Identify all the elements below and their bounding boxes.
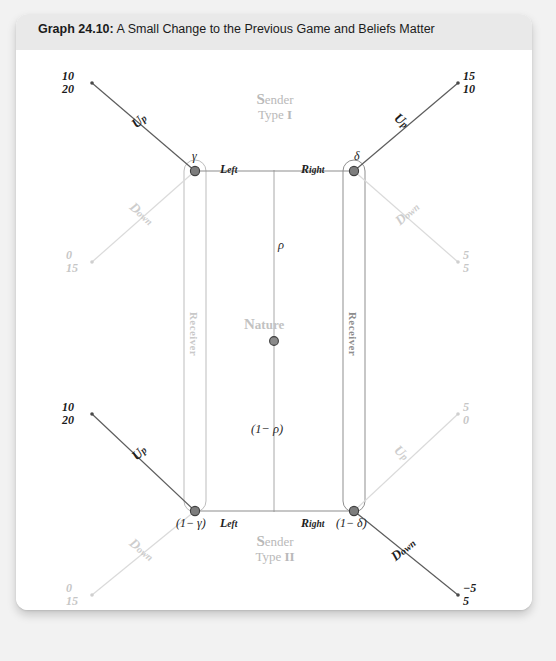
sender-top-cap: S	[256, 91, 264, 107]
message-bottom-right-cap: R	[301, 516, 309, 530]
sender-top-type: I	[287, 107, 292, 122]
node-one-minus-delta	[349, 506, 358, 515]
message-label-top-left: Left	[220, 162, 237, 177]
edge-br-up	[354, 414, 458, 511]
message-bottom-left-rest: eft	[227, 519, 237, 529]
payoff-tl-down: 0 15	[66, 249, 78, 274]
payoff-tl-up-bottom: 20	[62, 83, 74, 96]
sender-bottom-line-1: Sender	[238, 534, 312, 549]
sender-top-line-1: Sender	[238, 92, 312, 107]
node-delta	[349, 166, 358, 175]
nature-cap: N	[244, 316, 255, 332]
message-top-left-rest: eft	[227, 165, 237, 175]
terminal-bl-down	[90, 593, 94, 597]
player-label-sender-type-1: Sender Type I	[238, 92, 312, 122]
payoff-bl-down: 0 15	[66, 582, 78, 607]
sender-bottom-cap: S	[256, 533, 264, 549]
player-label-nature: Nature	[244, 316, 284, 333]
node-label-delta: δ	[354, 149, 360, 164]
payoff-tr-up: 15 10	[463, 70, 475, 95]
screenshot-root: Graph 24.10: A Small Change to the Previ…	[0, 0, 556, 661]
terminal-br-up	[456, 412, 460, 416]
payoff-tl-down-bottom: 15	[66, 262, 78, 275]
node-gamma	[190, 166, 199, 175]
message-bottom-right-rest: ight	[309, 519, 324, 529]
player-label-receiver-left: Receiver	[188, 312, 200, 356]
payoff-br-down-bottom: 5	[463, 595, 476, 608]
payoff-bl-up-top: 10	[62, 401, 74, 414]
sender-top-line-2: Type I	[238, 107, 312, 122]
edge-bl-up	[92, 414, 195, 511]
message-top-right-rest: ight	[309, 165, 324, 175]
payoff-tr-down-top: 5	[463, 249, 469, 262]
nature-prob-top: ρ	[278, 238, 284, 253]
nature-prob-bottom: (1− ρ)	[251, 422, 283, 437]
terminal-tr-down	[456, 260, 460, 264]
payoff-tl-up-top: 10	[62, 70, 74, 83]
graph-card: Graph 24.10: A Small Change to the Previ…	[16, 14, 532, 610]
node-label-one-minus-gamma: (1− γ)	[176, 516, 206, 531]
payoff-tl-down-top: 0	[66, 249, 78, 262]
payoff-bl-down-bottom: 15	[66, 595, 78, 608]
payoff-br-down: −5 5	[463, 582, 476, 607]
payoff-bl-up-bottom: 20	[62, 414, 74, 427]
terminal-tl-up	[90, 81, 94, 85]
player-label-sender-type-2: Sender Type II	[238, 534, 312, 564]
player-label-receiver-right: Receiver	[347, 312, 359, 356]
message-label-top-right: Right	[301, 162, 324, 177]
sender-bottom-type: II	[284, 549, 294, 564]
game-tree-canvas: 10 20 0 15 15 10 5 5 10 20 0 15	[16, 50, 532, 610]
node-one-minus-gamma	[190, 506, 199, 515]
message-top-right-cap: R	[301, 162, 309, 176]
payoff-br-up-bottom: 0	[463, 414, 469, 427]
payoff-tr-up-top: 15	[463, 70, 475, 83]
payoff-br-up-top: 5	[463, 401, 469, 414]
terminal-bl-up	[90, 412, 94, 416]
terminal-tl-down	[90, 260, 94, 264]
sender-bottom-line-2: Type II	[238, 549, 312, 564]
node-label-one-minus-delta: (1− δ)	[336, 516, 367, 531]
payoff-bl-up: 10 20	[62, 401, 74, 426]
payoff-br-up: 5 0	[463, 401, 469, 426]
payoff-tr-down: 5 5	[463, 249, 469, 274]
card-header: Graph 24.10: A Small Change to the Previ…	[16, 14, 532, 50]
graph-title-text: A Small Change to the Previous Game and …	[117, 22, 435, 36]
payoff-tr-down-bottom: 5	[463, 262, 469, 275]
terminal-tr-up	[456, 81, 460, 85]
payoff-br-down-top: −5	[463, 582, 476, 595]
node-label-gamma: γ	[192, 149, 197, 164]
payoff-tl-up: 10 20	[62, 70, 74, 95]
payoff-tr-up-bottom: 10	[463, 83, 475, 96]
node-nature	[270, 337, 279, 346]
page-title: Graph 24.10: A Small Change to the Previ…	[38, 22, 435, 36]
edge-tr-up	[354, 83, 458, 171]
message-label-bottom-right: Right	[301, 516, 324, 531]
graph-number: Graph 24.10:	[38, 22, 114, 36]
terminal-br-down	[456, 593, 460, 597]
payoff-bl-down-top: 0	[66, 582, 78, 595]
message-label-bottom-left: Left	[220, 516, 237, 531]
